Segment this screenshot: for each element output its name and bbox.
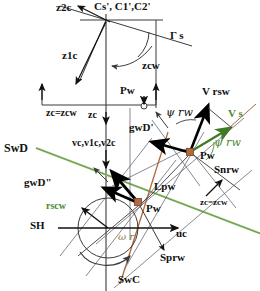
z1c-arrow [76,22,106,84]
label-z1c: z1c [62,50,77,61]
label-gwd-dprime: gwD" [24,177,52,188]
pw-right-marker [187,149,194,156]
label-pw-right: Pw [200,150,215,161]
label-vc-v1c-v2c: vc,v1c,v2c [72,138,115,148]
constr-line-8 [112,148,188,186]
label-swc: SwC [118,274,140,285]
label-snrw: Snrw [214,164,239,175]
label-rscw: rscw [46,201,66,211]
psi-rw-arc-black [176,120,196,124]
label-psi-rw-green: ψ rw [214,137,241,148]
label-omega-r: ω r [118,232,134,242]
label-zc-eq-zcw-right: zc=zcw [200,198,228,207]
label-pw-center: Pw [146,203,161,214]
label-pw-top: Pw [120,85,135,96]
label-psi-rw-black: ψ rw [166,107,193,118]
gamma-s-arc [138,32,149,57]
label-sprw: Sprw [160,252,185,263]
swd-green-line [36,148,260,238]
label-uc: uc [176,228,187,239]
label-gamma-s: Γ s [170,30,184,41]
label-zcw: zcw [142,60,160,71]
label-sh: SH [30,220,45,231]
label-zc: zc [88,110,97,120]
gwd-prime-vector [152,142,188,152]
label-z2c: z2c [56,2,71,13]
diagram-canvas: z2c Cs', C1',C2' Γ s z1c zcw Pw zc=zcw z… [0,0,260,291]
label-vs: V s [228,108,243,119]
label-gwd-prime: gwD' [129,122,153,133]
label-swd: SwD [4,142,28,154]
pw-center-marker [135,199,142,206]
label-vrsw: V rsw [202,86,230,97]
label-lpw: Lpw [154,181,175,192]
label-zc-eq-zcw-left: zc=zcw [46,108,77,118]
zc-zcw-right-arrow [206,180,222,196]
label-cs-c1-c2: Cs', C1',C2' [94,1,151,12]
zc-zcw-bracket-group [42,88,156,105]
